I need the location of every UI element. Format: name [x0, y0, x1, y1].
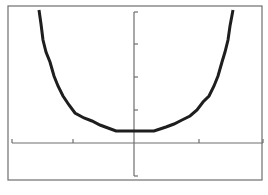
function-curve — [39, 10, 233, 131]
graph-canvas — [0, 0, 268, 195]
plot-frame — [8, 6, 262, 180]
y-axis-ticks — [134, 12, 138, 176]
